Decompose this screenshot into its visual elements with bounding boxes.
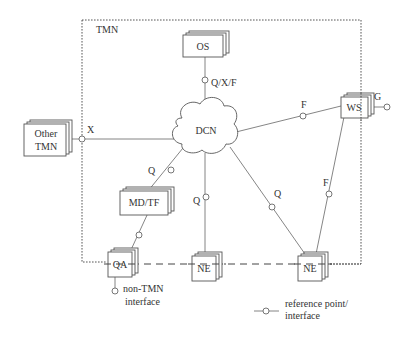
dcn-cloud: DCN (172, 97, 237, 153)
svg-text:F: F (323, 177, 329, 188)
svg-text:Q: Q (274, 188, 282, 199)
ref-point-q-ne-middle-icon (203, 194, 209, 200)
ref-point-f-ws-icon (300, 113, 306, 119)
svg-text:OS: OS (197, 41, 210, 52)
legend-ref-point-icon (263, 308, 269, 314)
ref-point-f-ne-icon (326, 191, 332, 197)
other-tmn-node: Other TMN (24, 120, 72, 156)
legend: reference point/ interface (254, 298, 348, 321)
ref-point-md-qa-icon (136, 232, 142, 238)
svg-text:reference point/: reference point/ (285, 298, 348, 309)
svg-text:DCN: DCN (195, 125, 216, 136)
ref-point-q-ne-right-icon (269, 204, 275, 210)
svg-text:Q/X/F: Q/X/F (211, 77, 237, 88)
svg-text:interface: interface (285, 310, 321, 321)
svg-text:interface: interface (125, 296, 161, 307)
svg-text:QA: QA (113, 259, 128, 270)
ref-point-x-icon (79, 136, 85, 142)
svg-text:Q: Q (193, 195, 201, 206)
svg-text:Q: Q (148, 165, 156, 176)
tmn-label: TMN (96, 24, 118, 35)
link-dcn-ne-right (230, 147, 305, 254)
svg-text:F: F (301, 99, 307, 110)
ref-point-q-md-icon (168, 167, 174, 173)
qa-node: QA (104, 248, 138, 277)
link-ws-ne-right (316, 117, 344, 254)
ne-middle-node: NE (188, 252, 226, 281)
svg-text:non-TMN: non-TMN (123, 283, 164, 294)
tmn-boundary-left (82, 20, 107, 262)
svg-text:WS: WS (347, 102, 362, 113)
svg-text:NE: NE (197, 263, 210, 274)
ref-point-g-icon (384, 104, 390, 110)
ref-point-os-dcn-icon (202, 77, 208, 83)
svg-text:G: G (374, 91, 381, 102)
ws-node: WS (341, 93, 374, 118)
svg-text:Other: Other (35, 128, 58, 139)
link-dcn-ws (236, 106, 341, 132)
ref-point-non-tmn-icon (112, 288, 118, 294)
svg-text:TMN: TMN (35, 141, 57, 152)
svg-text:NE: NE (303, 263, 316, 274)
md-tf-node: MD/TF (120, 187, 174, 215)
svg-text:MD/TF: MD/TF (129, 197, 160, 208)
os-node: OS (183, 31, 229, 57)
ne-right-node: NE (294, 252, 332, 281)
tmn-architecture-diagram: TMN OS DCN Other TMN WS (0, 0, 411, 338)
svg-text:X: X (87, 124, 95, 135)
